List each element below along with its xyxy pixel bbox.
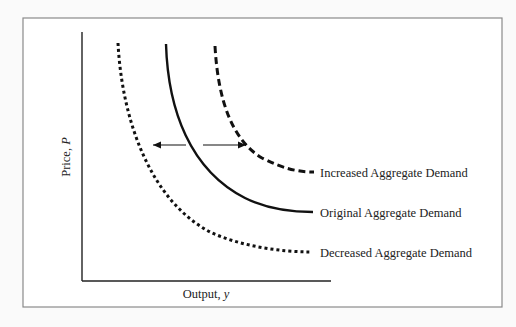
increased-demand-label: Increased Aggregate Demand	[320, 166, 469, 180]
decreased-demand-label: Decreased Aggregate Demand	[320, 246, 473, 260]
x-axis-label: Output, y	[183, 287, 230, 301]
y-axis-label: Price, P	[59, 137, 73, 177]
aggregate-demand-diagram: Increased Aggregate Demand Original Aggr…	[0, 0, 516, 327]
figure-frame	[23, 18, 502, 307]
original-demand-label: Original Aggregate Demand	[320, 206, 462, 220]
